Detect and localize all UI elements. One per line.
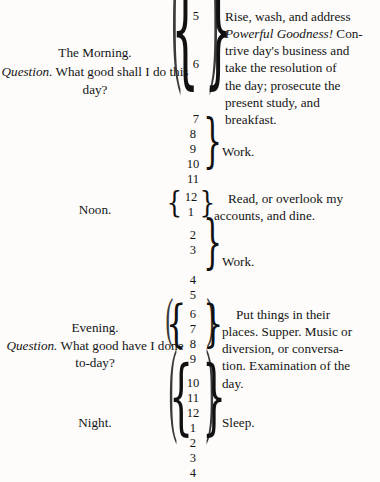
hour-value: 7 <box>178 322 208 337</box>
desc-line: trive day's business and <box>225 42 377 59</box>
desc-line: Put things in their <box>222 306 378 323</box>
hour-value: 6 <box>178 307 208 322</box>
section-label-noon: Noon. <box>0 201 190 220</box>
hour-value: 6 <box>181 57 211 72</box>
noon-label-title: Noon. <box>0 201 190 220</box>
night-label-title: Night. <box>0 414 190 433</box>
evening-label-title: Evening. <box>0 319 190 337</box>
description-evening: Put things in their places. Supper. Musi… <box>222 306 378 392</box>
hours-night: 10 11 12 1 2 3 4 <box>178 376 208 481</box>
morning-question-text: What good shall I do this day? <box>56 64 189 98</box>
evening-question: Question. What good have I done to-day? <box>0 337 190 372</box>
hours-noon: 12 1 <box>176 190 206 220</box>
hours-morning-work: 8 9 10 11 <box>178 127 208 187</box>
desc-line: day. <box>222 375 378 392</box>
hour-value: 1 <box>176 205 206 220</box>
hour-value: 2 <box>178 228 208 243</box>
desc-line-italic-mixed: Powerful Goodness! Con- <box>225 25 377 42</box>
hours-afternoon-work: 2 3 4 5 <box>178 228 208 303</box>
hour-value: 12 <box>176 190 206 205</box>
hour-value: 10 <box>178 157 208 172</box>
morning-question: Question. What good shall I do this day? <box>0 63 190 100</box>
desc-line: Work. <box>222 143 372 160</box>
desc-line: accounts, and dine. <box>214 207 374 224</box>
morning-question-prefix: Question. <box>2 64 53 79</box>
hour-value: 2 <box>178 436 208 451</box>
desc-line: Work. <box>222 253 372 270</box>
hour-value: 8 <box>178 127 208 142</box>
hour-spacer <box>178 258 208 273</box>
hour-value: 4 <box>178 273 208 288</box>
section-label-evening: Evening. Question. What good have I done… <box>0 319 190 372</box>
hours-morning: 5 <box>181 9 211 24</box>
document-page: The Morning. Question. What good shall I… <box>0 0 380 482</box>
hour-value: 5 <box>181 9 211 24</box>
description-noon: Read, or overlook my accounts, and dine. <box>214 190 374 224</box>
hours-morning-mid: 6 <box>181 57 211 72</box>
desc-line: diversion, or conversa- <box>222 340 378 357</box>
desc-line: Rise, wash, and address <box>225 8 377 25</box>
morning-label-title: The Morning. <box>0 44 190 63</box>
description-morning: Rise, wash, and address Powerful Goodnes… <box>225 8 377 128</box>
evening-question-prefix: Question. <box>6 338 57 353</box>
desc-line: present study, and <box>225 94 377 111</box>
hour-value: 12 <box>178 406 208 421</box>
hour-value: 9 <box>178 142 208 157</box>
section-label-night: Night. <box>0 414 190 433</box>
section-label-morning: The Morning. Question. What good shall I… <box>0 44 190 100</box>
description-night: Sleep. <box>222 414 372 431</box>
hour-value: 1 <box>178 421 208 436</box>
desc-line: Sleep. <box>222 414 372 431</box>
desc-line: Read, or overlook my <box>214 190 374 207</box>
hour-value: 3 <box>178 451 208 466</box>
hour-value: 11 <box>178 391 208 406</box>
hour-value: 3 <box>178 243 208 258</box>
desc-line: breakfast. <box>225 111 377 128</box>
desc-line: tion. Examination of the <box>222 357 378 374</box>
desc-line: take the resolution of <box>225 59 377 76</box>
hour-value: 4 <box>178 466 208 481</box>
desc-line: places. Supper. Music or <box>222 323 378 340</box>
desc-line: the day; prosecute the <box>225 77 377 94</box>
description-morning-work: Work. <box>222 143 372 160</box>
desc-italic-fragment: Powerful Goodness! <box>225 26 333 41</box>
hour-value: 10 <box>178 376 208 391</box>
description-afternoon-work: Work. <box>222 253 372 270</box>
